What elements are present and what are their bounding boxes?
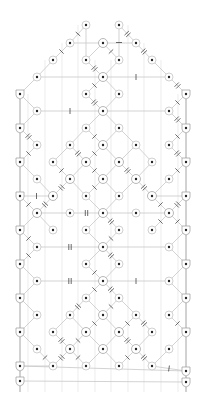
node-dot bbox=[19, 195, 21, 197]
graph-node bbox=[49, 328, 57, 336]
graph-node bbox=[33, 73, 41, 81]
graph-node bbox=[132, 345, 141, 354]
graph-node bbox=[99, 39, 108, 48]
graph-node bbox=[115, 192, 123, 200]
graph-node bbox=[49, 56, 57, 64]
graph-node bbox=[182, 378, 190, 387]
node-dot bbox=[185, 331, 187, 333]
graph-node bbox=[165, 73, 173, 81]
graph-node bbox=[82, 294, 90, 302]
node-dot bbox=[102, 348, 104, 350]
node-dot bbox=[185, 161, 187, 163]
graph-node bbox=[165, 107, 173, 115]
node-dot bbox=[151, 229, 153, 231]
node-dot bbox=[85, 24, 87, 26]
node-dot bbox=[168, 178, 170, 180]
graph-node bbox=[66, 209, 74, 217]
graph-node bbox=[82, 328, 91, 337]
graph-node bbox=[132, 209, 140, 217]
graph-node bbox=[165, 175, 173, 183]
graph-node bbox=[99, 141, 108, 150]
graph-node bbox=[165, 345, 173, 353]
node-dot bbox=[168, 212, 170, 214]
graph-node bbox=[182, 367, 190, 376]
node-dot bbox=[102, 280, 104, 282]
node-dot bbox=[69, 178, 71, 180]
node-dot bbox=[102, 246, 104, 248]
node-dot bbox=[168, 246, 170, 248]
graph-node bbox=[82, 260, 90, 268]
node-dot bbox=[102, 144, 104, 146]
node-dot bbox=[151, 59, 153, 61]
graph-node bbox=[115, 124, 123, 132]
graph-node bbox=[33, 243, 41, 251]
node-dot bbox=[36, 280, 38, 282]
node-dot bbox=[19, 297, 21, 299]
node-dot bbox=[168, 314, 170, 316]
node-dot bbox=[118, 229, 120, 231]
node-dot bbox=[36, 246, 38, 248]
graph-node bbox=[33, 277, 41, 285]
node-dot bbox=[69, 42, 71, 44]
graph-node bbox=[16, 377, 24, 386]
graph-node bbox=[115, 226, 123, 234]
node-dot bbox=[69, 212, 71, 214]
graph-node bbox=[99, 175, 108, 184]
graph-node bbox=[16, 158, 24, 167]
graph-node bbox=[182, 158, 190, 167]
graph-node bbox=[49, 226, 57, 234]
graph-node bbox=[165, 209, 174, 218]
graph-node bbox=[115, 21, 123, 29]
graph-node bbox=[16, 226, 24, 235]
node-dot bbox=[135, 42, 137, 44]
node-dot bbox=[85, 331, 87, 333]
node-dot bbox=[185, 93, 187, 95]
node-dot bbox=[102, 212, 104, 214]
graph-node bbox=[115, 328, 124, 337]
graph-node bbox=[33, 141, 41, 149]
node-dot bbox=[19, 365, 21, 367]
node-dot bbox=[151, 365, 153, 367]
node-dot bbox=[168, 280, 170, 282]
graph-node bbox=[49, 158, 57, 166]
graph-node bbox=[165, 243, 173, 251]
graph-node bbox=[165, 141, 173, 149]
graph-node bbox=[182, 124, 190, 133]
node-dot bbox=[36, 212, 38, 214]
graph-node bbox=[66, 311, 74, 319]
node-dot bbox=[19, 380, 21, 382]
graph-node bbox=[49, 362, 57, 370]
node-dot bbox=[185, 127, 187, 129]
graph-node bbox=[66, 39, 74, 47]
graph-node bbox=[115, 158, 124, 167]
node-dot bbox=[36, 144, 38, 146]
node-dot bbox=[85, 93, 87, 95]
graph-node bbox=[82, 192, 90, 200]
node-dot bbox=[69, 144, 71, 146]
node-dot bbox=[135, 348, 137, 350]
node-dot bbox=[102, 110, 104, 112]
graph-node bbox=[148, 226, 156, 234]
node-dot bbox=[102, 76, 104, 78]
graph-node bbox=[99, 107, 108, 116]
node-dot bbox=[36, 314, 38, 316]
graph-node bbox=[165, 311, 173, 319]
node-layer bbox=[16, 21, 190, 387]
node-dot bbox=[52, 229, 54, 231]
node-dot bbox=[118, 59, 120, 61]
graph-node bbox=[99, 277, 108, 286]
node-dot bbox=[185, 229, 187, 231]
graph-node bbox=[99, 209, 108, 218]
graph-node bbox=[115, 362, 123, 370]
graph-node bbox=[132, 175, 141, 184]
graph-node bbox=[82, 124, 90, 132]
graph-node bbox=[82, 362, 90, 370]
graph-node bbox=[115, 90, 123, 98]
graph-node bbox=[16, 192, 24, 201]
graph-node bbox=[82, 56, 90, 64]
node-dot bbox=[85, 297, 87, 299]
node-dot bbox=[118, 365, 120, 367]
graph-node bbox=[82, 90, 90, 98]
node-dot bbox=[118, 331, 120, 333]
graph-node bbox=[49, 192, 58, 201]
